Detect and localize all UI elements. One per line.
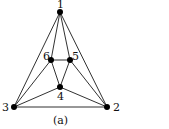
node-label-6: 6 [43, 50, 50, 63]
figure-caption: (a) [53, 114, 68, 127]
node-3 [11, 104, 17, 110]
node-label-1: 1 [57, 0, 64, 11]
edge-2-4 [60, 87, 107, 107]
edge-3-4 [14, 87, 60, 107]
node-2 [104, 104, 110, 110]
graph-diagram: 123456 (a) [0, 0, 169, 129]
edge-5-4 [60, 60, 70, 87]
edge-1-5 [60, 12, 70, 60]
edge-1-6 [51, 12, 60, 60]
node-label-3: 3 [2, 101, 9, 114]
edge-6-4 [51, 60, 60, 87]
node-label-4: 4 [57, 90, 64, 103]
edge-3-6 [14, 60, 51, 107]
node-label-2: 2 [113, 101, 120, 114]
node-label-5: 5 [72, 50, 79, 63]
edge-2-5 [70, 60, 107, 107]
